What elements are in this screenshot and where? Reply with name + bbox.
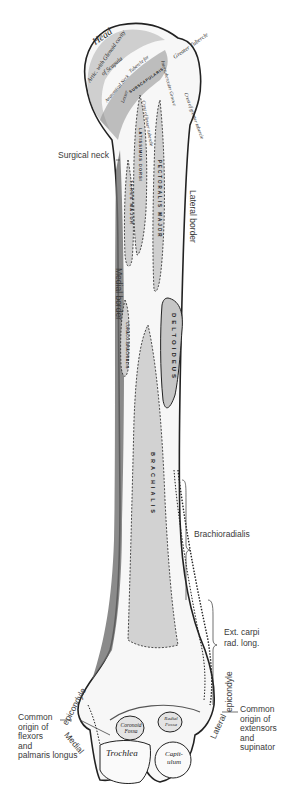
extensor-line-5: supinator <box>240 743 277 753</box>
label-lateral-border: Lateral border <box>188 190 198 243</box>
extensor-origin-label: Common origin of extensors and supinator <box>240 705 277 753</box>
label-coronoid: Coronoid Fossa <box>118 722 144 734</box>
label-trochlea: Trochlea <box>106 748 138 758</box>
label-latissimus: LATISSIMUS DORSI <box>138 128 143 182</box>
label-capitulum: Capit- ulum <box>160 750 188 766</box>
label-brachialis: BRACHIALIS <box>150 452 156 516</box>
label-deltoideus: DELTOIDEUS <box>171 313 177 381</box>
label-pectoralis: PECTORALIS MAJOR <box>157 160 162 238</box>
flexor-origin-label: Common origin of flexors and palmaris lo… <box>18 713 78 761</box>
label-teres: TERES MAJOR <box>129 180 134 225</box>
flexor-line-5: palmaris longus <box>18 751 78 761</box>
label-radial: Radial Fossa <box>160 716 182 728</box>
label-lateral-epicondyle: epicondyle <box>224 671 234 712</box>
label-ext-carpi-2: rad. long. <box>224 638 259 648</box>
label-medial-border: Medial border <box>114 268 124 320</box>
label-ext-carpi-1: Ext. carpi <box>224 627 259 637</box>
label-coraco: CORACO-BRACHIALIS <box>125 322 129 369</box>
label-brachioradialis: Brachioradialis <box>194 529 250 539</box>
trochlea <box>100 740 151 783</box>
label-surgical-neck: Surgical neck <box>58 150 109 160</box>
